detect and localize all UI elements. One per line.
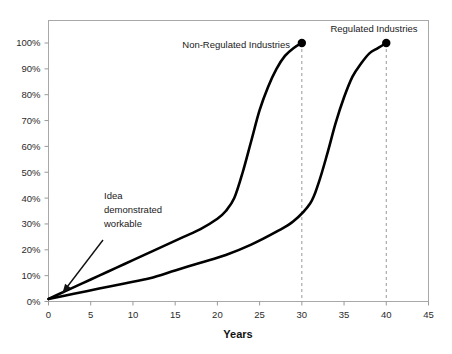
x-tick-label: 5 (88, 309, 93, 320)
y-tick-label: 100% (16, 37, 41, 48)
y-tick-label: 30% (21, 218, 41, 229)
x-tick-label: 30 (297, 309, 308, 320)
y-tick-label: 50% (21, 167, 41, 178)
y-tick-label: 60% (21, 141, 41, 152)
x-tick-label: 0 (46, 309, 51, 320)
x-tick-label: 40 (381, 309, 392, 320)
endpoint-marker-regulated-industries (382, 39, 390, 47)
x-tick-label: 35 (339, 309, 350, 320)
series-label-non-regulated-industries: Non-Regulated Industries (182, 39, 290, 50)
chart-background (0, 0, 452, 354)
annotation-line-3: workable (103, 218, 142, 229)
annotation-line-2: demonstrated (104, 204, 162, 215)
endpoint-marker-non-regulated-industries (298, 39, 306, 47)
x-tick-label: 20 (212, 309, 223, 320)
y-tick-label: 0% (27, 296, 41, 307)
y-tick-label: 80% (21, 89, 41, 100)
annotation-line-1: Idea (104, 190, 123, 201)
x-axis-title: Years (223, 328, 252, 340)
y-tick-label: 40% (21, 193, 41, 204)
y-tick-label: 70% (21, 115, 41, 126)
series-label-regulated-industries: Regulated Industries (330, 23, 417, 34)
x-tick-label: 25 (254, 309, 265, 320)
y-tick-label: 90% (21, 63, 41, 74)
y-tick-label: 10% (21, 270, 41, 281)
s-curve-chart: 0%10%20%30%40%50%60%70%80%90%100% 051015… (0, 0, 452, 354)
y-tick-label: 20% (21, 244, 41, 255)
x-tick-label: 15 (170, 309, 181, 320)
x-tick-label: 45 (423, 309, 434, 320)
chart-container: 0%10%20%30%40%50%60%70%80%90%100% 051015… (0, 0, 452, 354)
x-tick-label: 10 (128, 309, 139, 320)
